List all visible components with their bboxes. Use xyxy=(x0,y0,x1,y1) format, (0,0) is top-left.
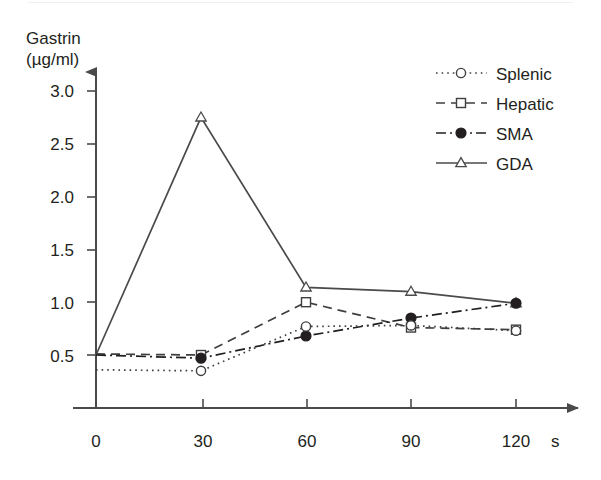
data-point-open-circle xyxy=(406,321,415,330)
legend-marker-open-circle xyxy=(456,68,465,77)
data-point-filled-circle xyxy=(511,298,521,308)
data-point-filled-circle xyxy=(196,353,206,363)
legend-marker-open-square xyxy=(457,99,466,108)
data-point-open-circle xyxy=(511,326,520,335)
data-point-open-square xyxy=(302,298,311,307)
legend-swatch-gda xyxy=(436,158,487,167)
data-point-open-triangle xyxy=(301,282,311,291)
data-point-open-triangle xyxy=(196,112,206,121)
series-line-gda xyxy=(96,117,516,355)
data-point-filled-circle xyxy=(301,331,311,341)
chart-canvas xyxy=(0,0,601,480)
data-point-open-circle xyxy=(301,322,310,331)
legend-swatch-hepatic xyxy=(436,99,487,108)
series-markers-gda xyxy=(196,112,521,307)
legend-swatch-splenic xyxy=(436,68,487,77)
data-point-open-circle xyxy=(196,366,205,375)
legend-marker-open-triangle xyxy=(456,158,466,167)
series-markers-sma xyxy=(196,298,521,363)
axis-lines xyxy=(73,72,578,408)
chart-figure: Gastrin (µg/ml) 3.0 2.5 2.0 1.5 1.0 0.5 … xyxy=(0,0,601,480)
legend-swatches xyxy=(436,68,487,166)
legend-marker-filled-circle xyxy=(456,128,466,138)
legend-swatch-sma xyxy=(436,128,487,138)
series-gda xyxy=(96,112,521,355)
